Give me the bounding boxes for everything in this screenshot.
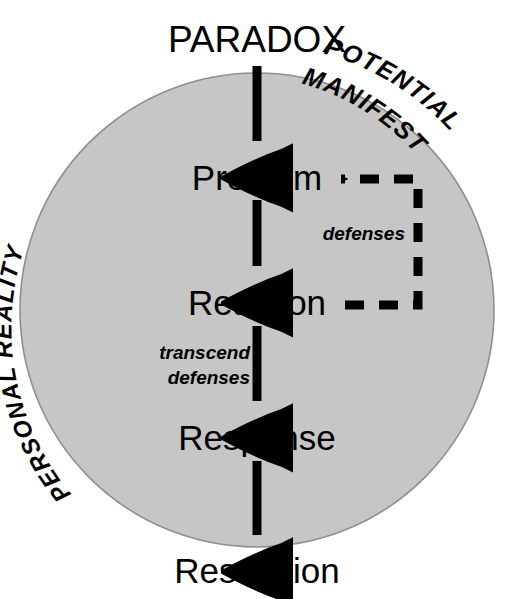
stage-label-paradox: PARADOX xyxy=(168,19,346,60)
paradox-diagram: POTENTIAL MANIFEST PERSONAL REALITY PARA… xyxy=(0,0,521,599)
annotation-transcend-defenses: defenses xyxy=(168,367,250,388)
stage-label-resolution: Resolution xyxy=(174,551,339,590)
annotation-transcend: transcend xyxy=(159,342,250,363)
stage-label-reaction: Reaction xyxy=(188,283,326,322)
diagram-canvas: POTENTIAL MANIFEST PERSONAL REALITY PARA… xyxy=(0,0,521,599)
stage-label-problem: Problem xyxy=(192,158,322,197)
stage-label-response: Response xyxy=(178,418,336,457)
annotation-defenses: defenses xyxy=(323,223,405,244)
